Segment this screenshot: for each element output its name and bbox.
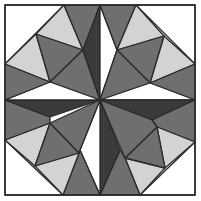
quilt-block-diagram xyxy=(0,0,201,201)
triangle-layer xyxy=(5,5,195,195)
